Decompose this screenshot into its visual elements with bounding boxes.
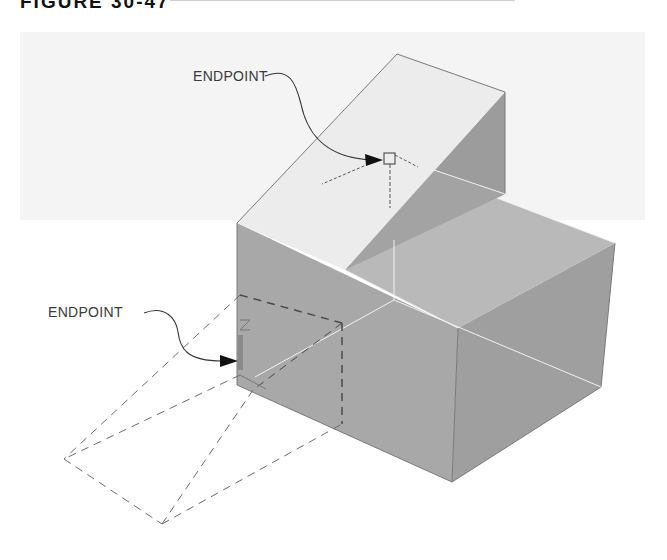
leader-arrow-left xyxy=(144,311,238,367)
endpoint-label-left: ENDPOINT xyxy=(48,304,123,320)
endpoint-label-top: ENDPOINT xyxy=(193,68,268,84)
isometric-drawing xyxy=(0,0,667,560)
figure-30-47: FIGURE 30-47 xyxy=(0,0,667,560)
